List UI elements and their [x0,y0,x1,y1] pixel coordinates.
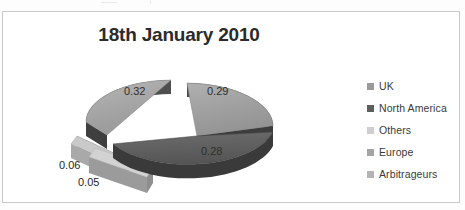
chart-frame: 18th January 2010 [2,11,460,203]
legend-label-europe: Europe [379,146,413,158]
pie-label-arbitrageurs: 0.05 [78,176,99,188]
pie-label-others: 0.06 [59,159,80,171]
legend-label-arbitrageurs: Arbitrageurs [379,168,437,180]
legend-label-others: Others [379,124,411,136]
legend-item-europe[interactable]: Europe [367,141,463,163]
pie-chart-plot-area: 0.32 0.29 0.28 0.06 0.05 [11,52,355,200]
pie-chart-graphic [11,52,355,200]
scan-artifact [150,1,151,4]
legend-swatch-icon [367,127,374,134]
legend-label-uk: UK [379,80,394,92]
legend-swatch-icon [367,149,374,156]
legend-swatch-icon [367,105,374,112]
pie-label-north-america: 0.28 [201,145,222,157]
legend-item-arbitrageurs[interactable]: Arbitrageurs [367,163,463,185]
chart-title: 18th January 2010 [3,24,355,46]
legend-item-north-america[interactable]: North America [367,97,463,119]
legend-label-north-america: North America [379,102,447,114]
legend-swatch-icon [367,171,374,178]
legend-item-others[interactable]: Others [367,119,463,141]
pie-label-uk: 0.29 [207,85,228,97]
legend-item-uk[interactable]: UK [367,75,463,97]
scanned-page-canvas: 18th January 2010 [0,0,465,210]
legend-swatch-icon [367,83,374,90]
pie-label-europe: 0.32 [124,85,145,97]
scan-artifact [101,2,117,3]
chart-legend: UK North America Others Europe Arbitrage… [367,75,463,185]
